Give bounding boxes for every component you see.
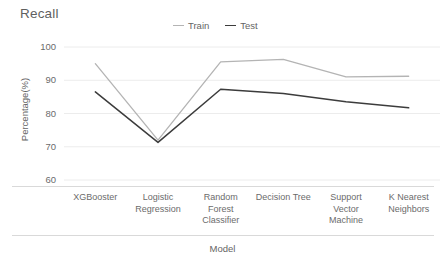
x-tick-label-2: Random Forest Classifier (189, 192, 252, 227)
series-lines (95, 59, 408, 142)
y-tick-label-100: 100 (30, 42, 56, 52)
y-tick-label-90: 90 (30, 75, 56, 85)
x-tick-label-5: K Nearest Neighbors (377, 192, 440, 215)
recall-line-chart: Recall Train Test Percentage(%) Model 10… (0, 0, 445, 264)
x-tick-label-0: XGBooster (64, 192, 127, 204)
y-tick-label-60: 60 (30, 175, 56, 185)
y-tick-label-80: 80 (30, 109, 56, 119)
series-line-train (95, 59, 408, 140)
x-tick-label-1: Logistic Regression (127, 192, 190, 215)
y-tick-label-70: 70 (30, 142, 56, 152)
x-tick-label-3: Decision Tree (252, 192, 315, 204)
x-tick-label-4: Support Vector Machine (315, 192, 378, 227)
series-line-test (95, 89, 408, 142)
gridlines (64, 47, 440, 180)
